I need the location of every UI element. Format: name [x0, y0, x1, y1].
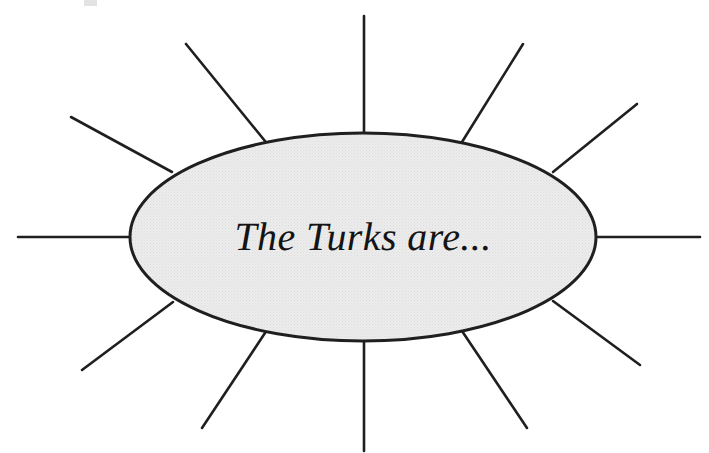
spider-diagram-canvas: The Turks are... — [0, 0, 709, 453]
scan-artifact — [84, 0, 97, 6]
center-label: The Turks are... — [130, 206, 596, 268]
